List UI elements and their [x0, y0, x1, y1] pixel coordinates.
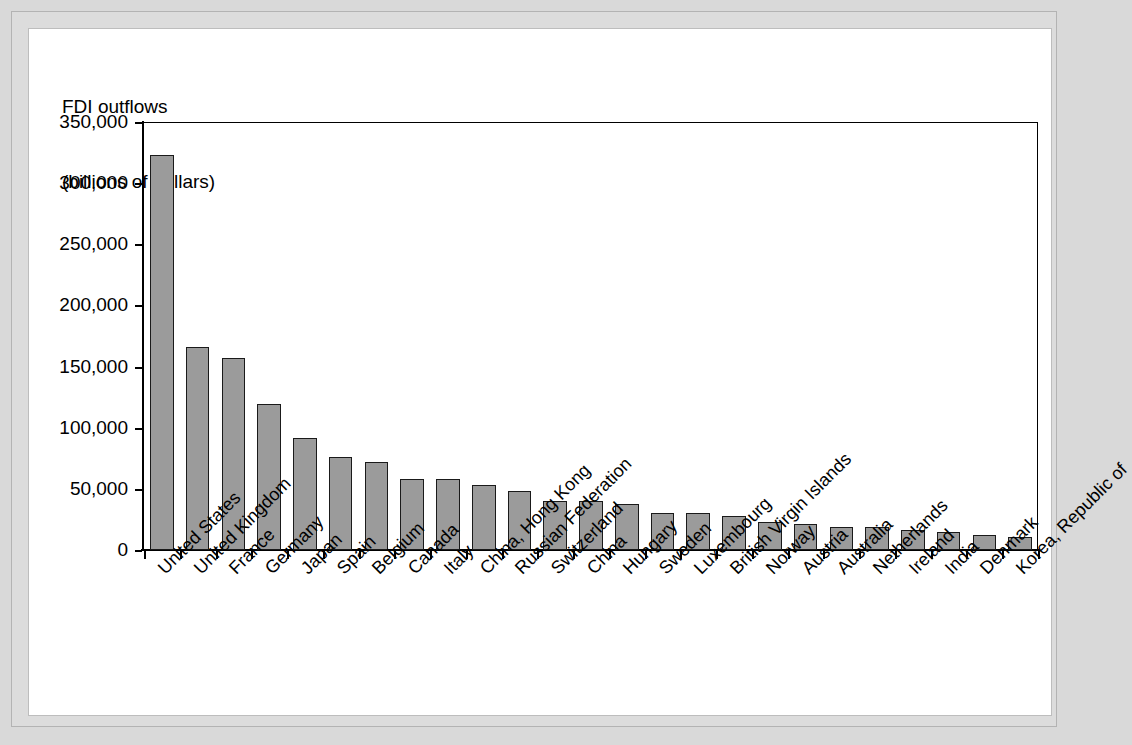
y-axis-tick-label: 350,000 — [59, 111, 128, 133]
y-axis-tick-label: 250,000 — [59, 233, 128, 255]
y-axis-tick-label: 200,000 — [59, 294, 128, 316]
y-axis-tick-label: 100,000 — [59, 417, 128, 439]
y-axis-tick — [135, 305, 142, 307]
bar[interactable] — [150, 155, 174, 550]
y-axis-tick — [135, 183, 142, 185]
y-axis-tick — [135, 428, 142, 430]
y-axis-tick — [135, 122, 142, 124]
y-axis-tick — [135, 489, 142, 491]
y-axis-tick-label: 50,000 — [70, 478, 128, 500]
y-axis-tick — [135, 550, 142, 552]
y-axis-tick — [135, 244, 142, 246]
y-axis-labels: 350,000300,000250,000200,000150,000100,0… — [0, 122, 128, 550]
y-axis-tick-label: 300,000 — [59, 172, 128, 194]
y-axis-tick — [135, 367, 142, 369]
x-axis-tick — [144, 550, 146, 559]
y-axis-tick-label: 0 — [117, 539, 128, 561]
y-axis-tick-label: 150,000 — [59, 356, 128, 378]
bar[interactable] — [472, 485, 496, 550]
